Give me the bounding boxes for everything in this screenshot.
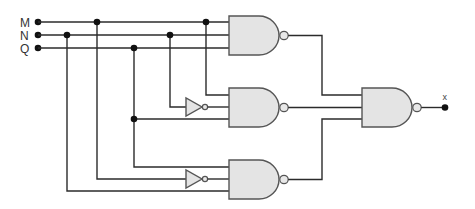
junction-m-1 — [94, 19, 101, 26]
junction-m-2 — [203, 19, 210, 26]
input-label-q: Q — [20, 42, 29, 56]
logic-circuit-diagram: M N Q x — [0, 0, 475, 209]
input-label-m: M — [20, 16, 30, 30]
not-gate-2-bubble — [202, 176, 207, 181]
nand-gate-4 — [362, 88, 412, 127]
not-gate-1 — [186, 98, 202, 116]
junction-n-1 — [64, 32, 71, 39]
wire-n-to-not1 — [170, 35, 186, 107]
nand-gate-4-bubble — [413, 103, 421, 111]
nand-gate-1 — [229, 16, 279, 55]
wire-m-to-nand2 — [206, 22, 229, 95]
output-terminal-x — [442, 104, 449, 111]
nand-gate-2-bubble — [280, 103, 288, 111]
nand-gate-3-bubble — [280, 175, 288, 183]
nand-gate-3 — [229, 160, 279, 199]
wire-m-to-not2 — [97, 22, 186, 179]
not-gate-1-bubble — [202, 104, 207, 109]
output-label-x: x — [443, 92, 448, 102]
wire-nand3-to-nand4 — [288, 119, 362, 180]
nand-gate-1-bubble — [280, 31, 288, 39]
not-gate-2 — [186, 170, 202, 188]
junction-n-2 — [167, 32, 174, 39]
wire-nand1-to-nand4 — [288, 36, 362, 96]
nand-gate-2 — [229, 88, 279, 127]
junction-q-2 — [131, 116, 138, 123]
junction-q-1 — [131, 45, 138, 52]
input-label-n: N — [20, 29, 29, 43]
